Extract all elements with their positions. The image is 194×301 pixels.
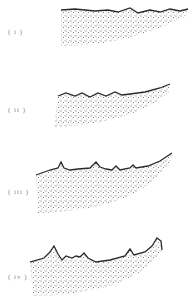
stippled-shapes	[0, 0, 194, 301]
panel-label-iv: ( iv )	[8, 273, 28, 281]
panel-label-iii: ( iii )	[8, 188, 29, 196]
panel-label-i: ( i )	[8, 28, 23, 36]
shape-iii	[36, 153, 172, 213]
shape-ii	[54, 84, 170, 127]
panel-label-ii: ( ii )	[8, 106, 26, 114]
shape-i	[61, 8, 188, 46]
shape-iv	[30, 238, 162, 296]
